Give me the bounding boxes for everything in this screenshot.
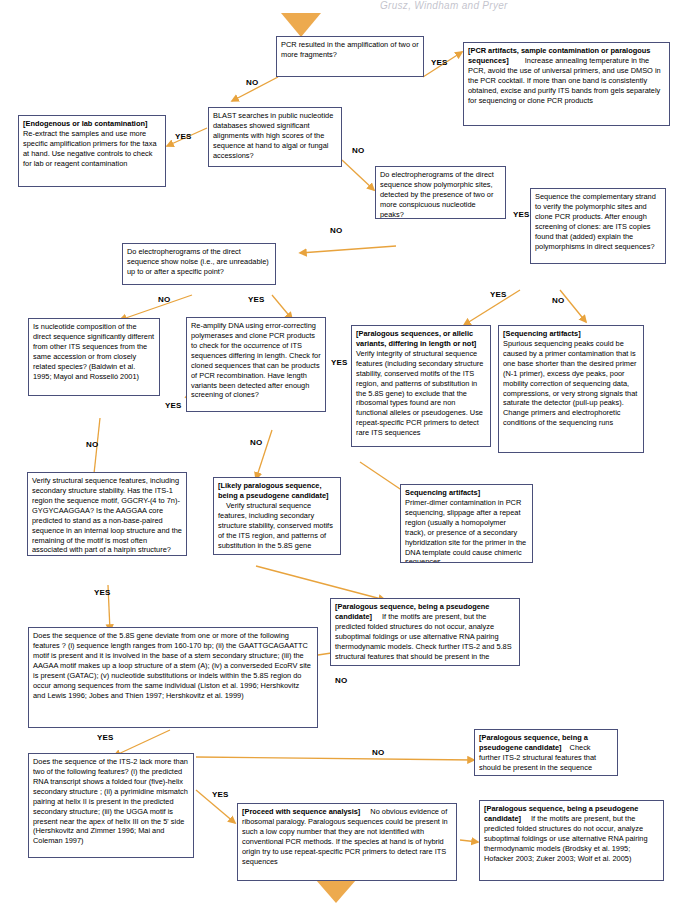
edge-label-complementary-no: NO xyxy=(552,296,564,305)
edge-label-noise-yes: YES xyxy=(248,295,265,304)
node-paralogous-pseudogene-3[interactable]: [Paralogous sequence, being a pseudogene… xyxy=(479,800,664,881)
node-endogenous-contamination[interactable]: [Endogenous or lab contamination] Re-ext… xyxy=(18,115,166,187)
edge-label-noise-no: NO xyxy=(158,295,170,304)
node-sequencing-artifacts-1[interactable]: [Sequencing artifacts] Spurious sequenci… xyxy=(498,325,644,453)
running-header: Grusz, Windham and Pryer xyxy=(380,0,640,12)
exit-arrow xyxy=(316,880,356,903)
node-text: Do electropherograms of the direct seque… xyxy=(380,170,494,219)
edge-label-reamplify-yes: YES xyxy=(331,358,348,367)
node-pcr-artifacts[interactable]: [PCR artifacts, sample contamination or … xyxy=(463,42,670,126)
edge-label-verify-yes: YES xyxy=(94,588,111,597)
node-text: Verify structural sequence features, inc… xyxy=(218,501,333,550)
node-text: PCR resulted in the amplification of two… xyxy=(281,40,419,59)
edge-label-polymorphic-no: NO xyxy=(330,226,342,235)
node-text: Does the sequence of the ITS-2 lack more… xyxy=(33,757,188,845)
node-bold-title: [Endogenous or lab contamination] xyxy=(23,119,147,128)
edge-label-polymorphic-yes: YES xyxy=(513,210,530,219)
node-text: Sequence the complementary strand to ver… xyxy=(535,192,656,251)
node-likely-paralogous[interactable]: [Likely paralogous sequence, being a pse… xyxy=(213,477,341,555)
node-verify-structural[interactable]: Verify structural sequence features, inc… xyxy=(27,472,187,556)
node-text: Verify integrity of structural sequence … xyxy=(356,349,483,437)
node-its2-question[interactable]: Does the sequence of the ITS-2 lack more… xyxy=(28,753,194,858)
node-text: BLAST searches in public nucleotide data… xyxy=(213,111,333,160)
edge-label-nucleotide-yes: YES xyxy=(165,401,182,410)
node-text: Verify structural sequence features, inc… xyxy=(32,476,182,556)
edge-label-5-8s-no: YES xyxy=(97,733,114,742)
node-bold-title: Sequencing artifacts] xyxy=(405,488,480,497)
node-paralogous-pseudogene-2[interactable]: [Paralogous sequence, being a pseudogene… xyxy=(474,729,618,776)
node-proceed-with-analysis[interactable]: [Proceed with sequence analysis] No obvi… xyxy=(237,803,457,881)
node-5-8s-question[interactable]: Does the sequence of the 5.8S gene devia… xyxy=(28,627,318,728)
edge-label-its2-no: YES xyxy=(212,790,229,799)
node-text: Spurious sequencing peaks could be cause… xyxy=(503,339,637,427)
node-text: Does the sequence of the 5.8S gene devia… xyxy=(33,631,311,700)
node-blast-question[interactable]: BLAST searches in public nucleotide data… xyxy=(208,107,342,167)
node-paralogous-allelic[interactable]: [Paralogous sequences, or allelic varian… xyxy=(351,325,491,447)
node-sequencing-artifacts-2[interactable]: Sequencing artifacts] Primer-dimer conta… xyxy=(400,484,533,563)
node-nucleotide-composition-question[interactable]: Is nucleotide composition of the direct … xyxy=(28,318,160,396)
node-text: Re-amplify DNA using error-correcting po… xyxy=(191,321,321,399)
edge-label-blast-yes: YES xyxy=(175,132,192,141)
node-reamplify-question[interactable]: Re-amplify DNA using error-correcting po… xyxy=(186,317,326,412)
edge-label-start-no: NO xyxy=(246,78,258,87)
edge-label-5-8s-yes: NO xyxy=(335,676,347,685)
edge-label-its2-yes: NO xyxy=(372,748,384,757)
node-text: Primer-dimer contamination in PCR sequen… xyxy=(405,498,526,563)
node-text: Is nucleotide composition of the direct … xyxy=(33,322,154,381)
edge-label-reamplify-no: NO xyxy=(250,438,262,447)
node-bold-title: [Paralogous sequences, or allelic varian… xyxy=(356,329,476,348)
node-paralogous-pseudogene-1[interactable]: [Paralogous sequence, being a pseudogene… xyxy=(330,598,520,666)
edge-label-blast-no: NO xyxy=(352,146,364,155)
flowchart-page: Grusz, Windham and Pryer xyxy=(0,0,678,907)
edge-label-start-yes: YES xyxy=(431,58,448,67)
entry-arrow xyxy=(281,13,321,37)
node-bold-title: [Sequencing artifacts] xyxy=(503,329,581,338)
node-bold-title: [Likely paralogous sequence, being a pse… xyxy=(218,481,328,500)
node-noise-question[interactable]: Do electropherograms of the direct seque… xyxy=(122,243,276,285)
node-start-question[interactable]: PCR resulted in the amplification of two… xyxy=(276,36,424,77)
node-text: Do electropherograms of the direct seque… xyxy=(127,247,269,276)
edge-label-complementary-yes: YES xyxy=(490,290,507,299)
node-polymorphic-question[interactable]: Do electropherograms of the direct seque… xyxy=(375,166,506,219)
node-sequence-complementary-question[interactable]: Sequence the complementary strand to ver… xyxy=(530,188,666,264)
node-text: Re-extract the samples and use more spec… xyxy=(23,129,157,168)
node-bold-title: [Proceed with sequence analysis] xyxy=(242,807,360,816)
edge-label-nucleotide-no: NO xyxy=(86,440,98,449)
